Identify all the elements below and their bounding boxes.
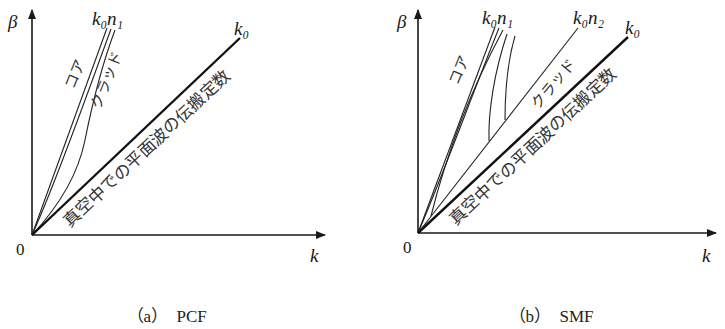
core-label: コア [445,53,473,88]
caption-b: （b） SMF [500,282,594,327]
vacuum-label: 真空中での平面波の伝搬定数 [59,66,234,231]
figure-canvas: β 0 k k₀n₁ k₀ コア クラッド 真空中での平面波の伝搬定数 β 0 … [0,0,725,329]
beta-label: β [396,11,407,32]
core-label: コア [61,57,89,92]
k0-label: k₀ [234,18,249,39]
vacuum-line [418,37,628,233]
k0-label: k₀ [625,17,640,38]
k0n1-label: k₀n₁ [482,7,513,28]
beta-label: β [7,11,18,32]
origin-label: 0 [403,238,412,257]
caption-b-name: SMF [560,307,594,326]
caption-a-tag: （a） [127,307,169,326]
k0n2-label: k₀n₂ [573,7,605,28]
panel-b-smf: β 0 k k₀n₁ k₀n₂ k₀ コア クラッド 真空中での平面波の伝搬定数 [396,7,716,266]
mode-curve-3 [489,34,507,141]
origin-label: 0 [16,240,25,259]
k0n1-label: k₀n₁ [92,8,123,29]
vacuum-line [32,38,240,235]
mode-curve-4 [505,36,515,120]
cladding-label: クラッド [87,49,126,111]
k-axis-label: k [702,245,711,266]
vacuum-label: 真空中での平面波の伝搬定数 [445,64,620,229]
panel-a-pcf: β 0 k k₀n₁ k₀ コア クラッド 真空中での平面波の伝搬定数 [7,8,325,266]
k-axis-label: k [310,245,319,266]
caption-a-name: PCF [177,307,207,326]
caption-b-tag: （b） [509,307,552,326]
caption-a: （a） PCF [118,282,207,327]
